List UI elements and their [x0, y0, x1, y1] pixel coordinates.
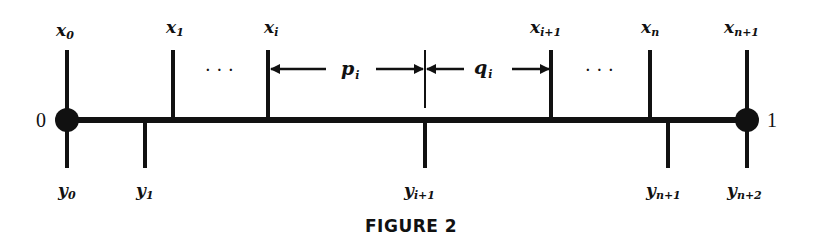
x-label-0: x0 — [55, 20, 74, 42]
q-i-label: qi — [474, 56, 492, 81]
x-label-i: xi — [263, 17, 278, 39]
y-label-0: y0 — [57, 180, 76, 202]
right-endpoint-dot — [735, 108, 759, 132]
figure-2-diagram: pi qi · · · · · · 0 1 x0 x1 xi xi+1 xn x… — [0, 0, 813, 244]
y-label-n-plus-2: yn+2 — [726, 180, 762, 202]
figure-caption: FIGURE 2 — [365, 216, 457, 236]
y-label-1: y1 — [135, 180, 154, 202]
zero-label: 0 — [36, 109, 46, 131]
ellipsis-right: · · · — [585, 59, 614, 80]
ellipsis-left: · · · — [205, 59, 234, 80]
x-ticks — [67, 50, 747, 120]
x-label-n-plus-1: xn+1 — [723, 17, 759, 39]
p-i-label: pi — [341, 57, 359, 82]
y-label-i-plus-1: yi+1 — [403, 180, 435, 202]
one-label: 1 — [767, 109, 777, 131]
x-label-n: xn — [640, 17, 659, 39]
left-endpoint-dot — [55, 108, 79, 132]
x-label-1: x1 — [165, 17, 184, 39]
y-ticks — [67, 120, 747, 168]
x-label-i-plus-1: xi+1 — [529, 17, 561, 39]
y-label-n-plus-1: yn+1 — [645, 180, 681, 202]
